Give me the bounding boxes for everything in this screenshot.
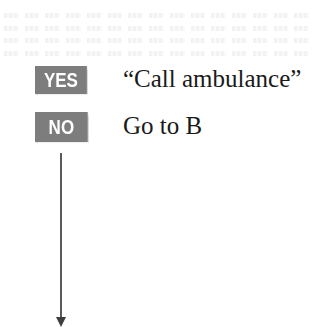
faded-header-text: [0, 10, 313, 56]
flow-connector-line: [60, 153, 62, 319]
no-action-text: Go to B: [123, 112, 202, 140]
no-badge-label: NO: [49, 116, 75, 139]
yes-badge: YES: [35, 66, 87, 94]
no-badge: NO: [35, 112, 88, 142]
arrow-down-icon: [56, 317, 66, 327]
yes-badge-label: YES: [44, 69, 78, 92]
yes-action-text: “Call ambulance”: [123, 65, 301, 93]
